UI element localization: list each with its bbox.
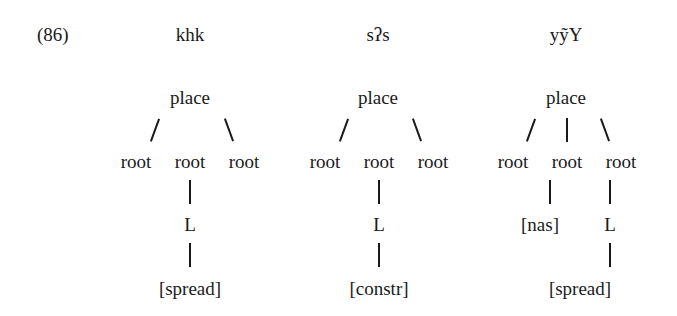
link-root-L: [378, 180, 380, 204]
place-node: place: [358, 87, 398, 109]
root-node-1: root: [498, 151, 529, 173]
link-L-feature: [378, 243, 380, 267]
branch-middle: [566, 118, 568, 142]
branch-left: [339, 118, 349, 141]
place-node: place: [170, 87, 210, 109]
tree-heading: yỹY: [550, 24, 583, 46]
link-root-nas: [549, 180, 551, 204]
feature-spread: [spread]: [549, 278, 611, 300]
root-node-3: root: [606, 151, 637, 173]
root-node-2: root: [552, 151, 583, 173]
root-node-1: root: [121, 151, 152, 173]
laryngeal-node: L: [604, 214, 616, 236]
branch-right: [412, 118, 422, 141]
branch-right: [600, 118, 610, 141]
feature-constr: [constr]: [349, 278, 408, 300]
link-L-feature: [189, 243, 191, 267]
feature-nas: [nas]: [521, 214, 559, 236]
tree-heading: khk: [176, 24, 205, 46]
root-node-2: root: [175, 151, 206, 173]
root-node-2: root: [364, 151, 395, 173]
branch-right: [224, 118, 234, 141]
root-node-1: root: [310, 151, 341, 173]
root-node-3: root: [418, 151, 449, 173]
link-L-feature: [609, 243, 611, 267]
laryngeal-node: L: [184, 214, 196, 236]
branch-left: [526, 118, 536, 141]
feature-spread: [spread]: [159, 278, 221, 300]
tree-heading: sʔs: [366, 24, 389, 46]
laryngeal-node: L: [373, 214, 385, 236]
branch-left: [150, 118, 160, 141]
root-node-3: root: [229, 151, 260, 173]
link-root-L: [189, 180, 191, 204]
link-root-L: [609, 180, 611, 204]
example-number: (86): [37, 24, 69, 46]
place-node: place: [546, 87, 586, 109]
